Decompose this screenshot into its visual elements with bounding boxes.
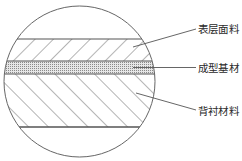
label-surface-fabric: 表层面料 [198,23,239,35]
label-core-substrate: 成型基材 [198,62,239,74]
surface-fabric-layer [0,39,242,61]
label-backing-material: 背衬材料 [198,105,239,117]
leader-line-surface [133,29,196,47]
backing-material-layer [0,74,242,127]
